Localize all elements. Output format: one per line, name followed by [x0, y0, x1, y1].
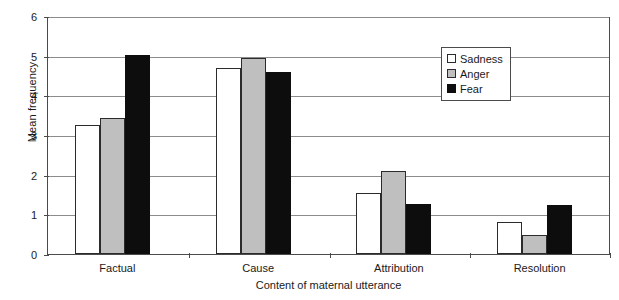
y-tick-label: 6: [0, 12, 37, 22]
x-tick-mark: [330, 253, 331, 258]
x-tick-label-cause: Cause: [188, 262, 328, 274]
legend-item-fear: Fear: [447, 81, 503, 96]
bar-factual-sadness: [75, 125, 100, 254]
bar-resolution-anger: [522, 235, 547, 254]
x-tick-label-resolution: Resolution: [470, 262, 610, 274]
bar-cause-fear: [266, 72, 291, 254]
legend-label-sadness: Sadness: [460, 53, 503, 65]
legend-label-fear: Fear: [460, 83, 483, 95]
bar-attribution-anger: [381, 171, 406, 254]
legend-swatch-anger-icon: [447, 69, 456, 78]
x-axis-title: Content of maternal utterance: [47, 279, 610, 291]
bars-layer: [48, 18, 609, 254]
bar-group: [356, 18, 431, 254]
legend-swatch-sadness-icon: [447, 54, 456, 63]
bar-group: [216, 18, 291, 254]
legend-label-anger: Anger: [460, 68, 489, 80]
y-tick-label: 0: [0, 250, 37, 260]
x-tick-label-factual: Factual: [47, 262, 187, 274]
bar-factual-anger: [100, 118, 125, 254]
y-tick-label: 1: [0, 210, 37, 220]
bar-resolution-fear: [547, 205, 572, 254]
x-tick-mark: [189, 253, 190, 258]
y-tick-label: 2: [0, 171, 37, 181]
y-axis-title: Mean frequency: [26, 22, 38, 182]
legend-swatch-fear-icon: [447, 84, 456, 93]
bar-chart-figure: Mean frequency 0123456 FactualCauseAttri…: [0, 0, 619, 300]
y-tick-label: 4: [0, 91, 37, 101]
bar-cause-sadness: [216, 68, 241, 254]
x-tick-mark: [610, 253, 611, 258]
x-tick-label-attribution: Attribution: [329, 262, 469, 274]
bar-attribution-fear: [406, 204, 431, 254]
y-tick-mark: [44, 255, 49, 256]
legend-item-sadness: Sadness: [447, 51, 503, 66]
bar-group: [75, 18, 150, 254]
bar-resolution-sadness: [497, 222, 522, 254]
chart-legend: Sadness Anger Fear: [441, 47, 511, 101]
plot-area: [47, 17, 610, 255]
x-tick-mark: [470, 253, 471, 258]
bar-cause-anger: [241, 58, 266, 254]
bar-factual-fear: [125, 55, 150, 254]
bar-attribution-sadness: [356, 193, 381, 254]
legend-item-anger: Anger: [447, 66, 503, 81]
y-tick-label: 5: [0, 52, 37, 62]
y-tick-label: 3: [0, 131, 37, 141]
